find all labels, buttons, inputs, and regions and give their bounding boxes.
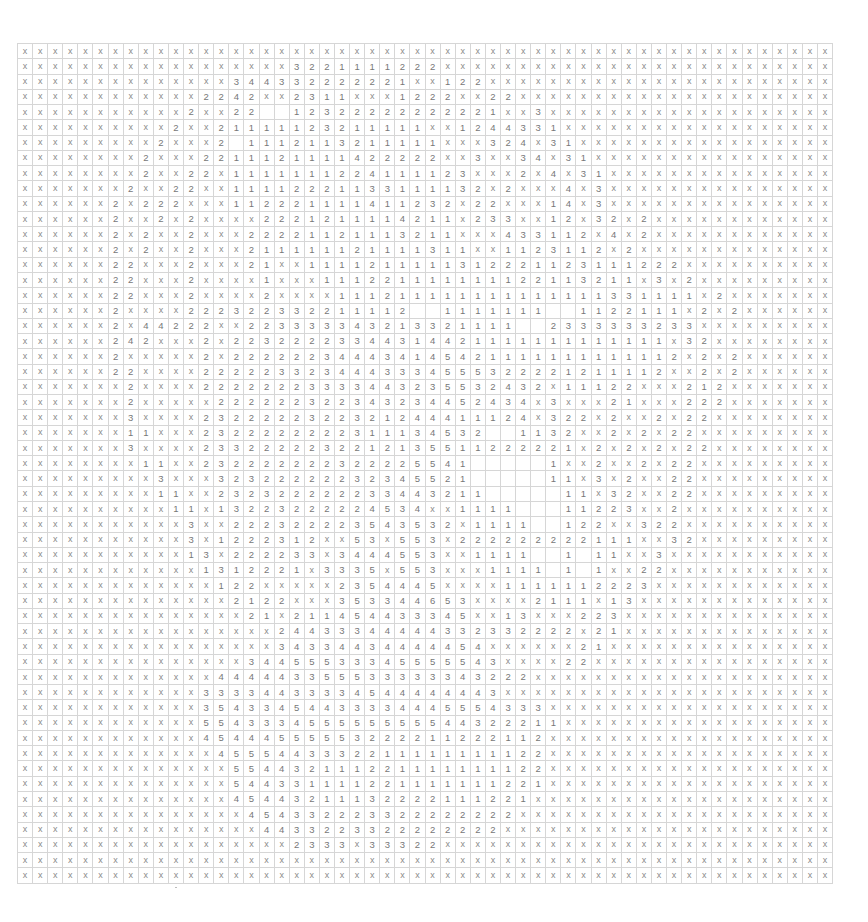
grid-cell: 4 bbox=[516, 395, 531, 410]
grid-cell: x bbox=[18, 364, 33, 379]
grid-cell: x bbox=[168, 44, 183, 59]
grid-cell: x bbox=[712, 685, 727, 700]
grid-cell: 2 bbox=[591, 440, 606, 455]
grid-cell: x bbox=[138, 486, 153, 501]
grid-cell: x bbox=[576, 105, 591, 120]
grid-cell: 2 bbox=[350, 746, 365, 761]
grid-cell: x bbox=[712, 303, 727, 318]
grid-cell: 1 bbox=[440, 792, 455, 807]
grid-cell: 3 bbox=[229, 486, 244, 501]
grid-cell: x bbox=[621, 654, 636, 669]
grid-cell: x bbox=[138, 135, 153, 150]
grid-cell: 2 bbox=[395, 395, 410, 410]
grid-cell: 4 bbox=[425, 425, 440, 440]
grid-row: xxxxxxxxxxxx35433454433334445554333xxxxx… bbox=[18, 700, 833, 715]
grid-cell: 2 bbox=[697, 410, 712, 425]
grid-cell: x bbox=[516, 89, 531, 104]
grid-cell: 2 bbox=[440, 105, 455, 120]
grid-cell: 3 bbox=[334, 654, 349, 669]
grid-cell: x bbox=[757, 547, 772, 562]
grid-cell: 1 bbox=[531, 578, 546, 593]
grid-cell: x bbox=[651, 746, 666, 761]
grid-cell: x bbox=[63, 59, 78, 74]
grid-cell: x bbox=[727, 150, 742, 165]
grid-cell: x bbox=[712, 593, 727, 608]
grid-cell: 1 bbox=[334, 242, 349, 257]
grid-cell: 5 bbox=[470, 700, 485, 715]
grid-cell: 4 bbox=[380, 654, 395, 669]
grid-cell: x bbox=[18, 227, 33, 242]
grid-cell: x bbox=[319, 532, 334, 547]
grid-cell: 1 bbox=[531, 715, 546, 730]
grid-cell: x bbox=[138, 654, 153, 669]
grid-cell: x bbox=[33, 364, 48, 379]
grid-cell: 2 bbox=[621, 471, 636, 486]
grid-cell: 3 bbox=[606, 486, 621, 501]
grid-cell: 3 bbox=[350, 471, 365, 486]
grid-cell: x bbox=[184, 578, 199, 593]
grid-cell: x bbox=[787, 669, 802, 684]
grid-cell: x bbox=[93, 135, 108, 150]
grid-cell: x bbox=[123, 196, 138, 211]
grid-cell: 2 bbox=[485, 379, 500, 394]
grid-cell: 2 bbox=[289, 227, 304, 242]
grid-cell: x bbox=[63, 120, 78, 135]
grid-cell: 3 bbox=[380, 593, 395, 608]
grid-cell: x bbox=[757, 425, 772, 440]
grid-cell: x bbox=[667, 395, 682, 410]
grid-cell: x bbox=[712, 730, 727, 745]
grid-cell: x bbox=[576, 837, 591, 852]
grid-cell: 2 bbox=[289, 471, 304, 486]
grid-cell: x bbox=[757, 669, 772, 684]
grid-cell: x bbox=[682, 578, 697, 593]
grid-cell: 5 bbox=[395, 654, 410, 669]
grid-cell: 3 bbox=[395, 669, 410, 684]
grid-cell: 2 bbox=[561, 211, 576, 226]
grid-cell: x bbox=[636, 44, 651, 59]
grid-cell: x bbox=[108, 166, 123, 181]
grid-cell: x bbox=[772, 486, 787, 501]
grid-cell: x bbox=[199, 624, 214, 639]
grid-cell: 2 bbox=[138, 334, 153, 349]
grid-cell: 3 bbox=[350, 822, 365, 837]
grid-cell: x bbox=[667, 730, 682, 745]
grid-cell: 1 bbox=[561, 288, 576, 303]
grid-cell: x bbox=[787, 456, 802, 471]
grid-cell: x bbox=[757, 272, 772, 287]
grid-cell: x bbox=[274, 257, 289, 272]
grid-cell: 2 bbox=[153, 135, 168, 150]
grid-cell: x bbox=[48, 166, 63, 181]
grid-cell: x bbox=[727, 135, 742, 150]
grid-cell: 3 bbox=[425, 196, 440, 211]
grid-cell: x bbox=[168, 364, 183, 379]
grid-cell: 2 bbox=[244, 379, 259, 394]
grid-cell: x bbox=[772, 715, 787, 730]
grid-cell: x bbox=[817, 120, 832, 135]
grid-cell: x bbox=[742, 334, 757, 349]
grid-cell: x bbox=[697, 685, 712, 700]
grid-cell: 1 bbox=[425, 272, 440, 287]
grid-cell: 2 bbox=[304, 120, 319, 135]
grid-cell: 3 bbox=[425, 532, 440, 547]
grid-row: xxxxxxxxxxxxxxxxx24433344444332332222x21… bbox=[18, 624, 833, 639]
grid-cell: 1 bbox=[561, 364, 576, 379]
grid-cell: x bbox=[742, 166, 757, 181]
grid-cell: 2 bbox=[289, 196, 304, 211]
grid-cell: x bbox=[651, 837, 666, 852]
grid-cell: 3 bbox=[410, 395, 425, 410]
grid-cell: 1 bbox=[561, 440, 576, 455]
grid-cell bbox=[470, 456, 485, 471]
grid-cell: 2 bbox=[365, 150, 380, 165]
grid-cell: x bbox=[455, 44, 470, 59]
grid-cell: 1 bbox=[319, 257, 334, 272]
grid-cell: x bbox=[153, 776, 168, 791]
grid-cell: x bbox=[63, 456, 78, 471]
grid-cell: 2 bbox=[591, 578, 606, 593]
grid-cell: x bbox=[712, 639, 727, 654]
grid-cell: x bbox=[651, 120, 666, 135]
grid-cell: 2 bbox=[380, 150, 395, 165]
grid-cell: x bbox=[817, 349, 832, 364]
grid-cell: x bbox=[63, 807, 78, 822]
grid-cell bbox=[531, 486, 546, 501]
grid-cell: x bbox=[817, 730, 832, 745]
